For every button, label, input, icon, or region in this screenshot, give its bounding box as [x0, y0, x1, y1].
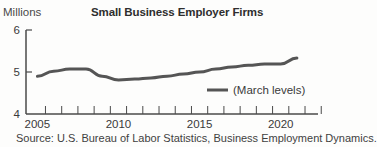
- legend-label: (March levels): [233, 84, 305, 96]
- y-tick-label: 5: [14, 66, 20, 78]
- x-axis: 2005201020152020: [25, 106, 322, 130]
- y-tick-label: 6: [14, 24, 20, 36]
- x-tick-label: 2010: [106, 118, 132, 130]
- x-tick-label: 2020: [268, 118, 294, 130]
- legend: (March levels): [207, 84, 305, 96]
- source-note: Source: U.S. Bureau of Labor Statistics,…: [16, 132, 377, 144]
- y-tick-label: 4: [14, 108, 21, 120]
- data-line-series: [37, 58, 297, 80]
- x-tick-label: 2005: [25, 118, 51, 130]
- x-tick-label: 2015: [187, 118, 213, 130]
- y-axis: 456: [14, 24, 32, 120]
